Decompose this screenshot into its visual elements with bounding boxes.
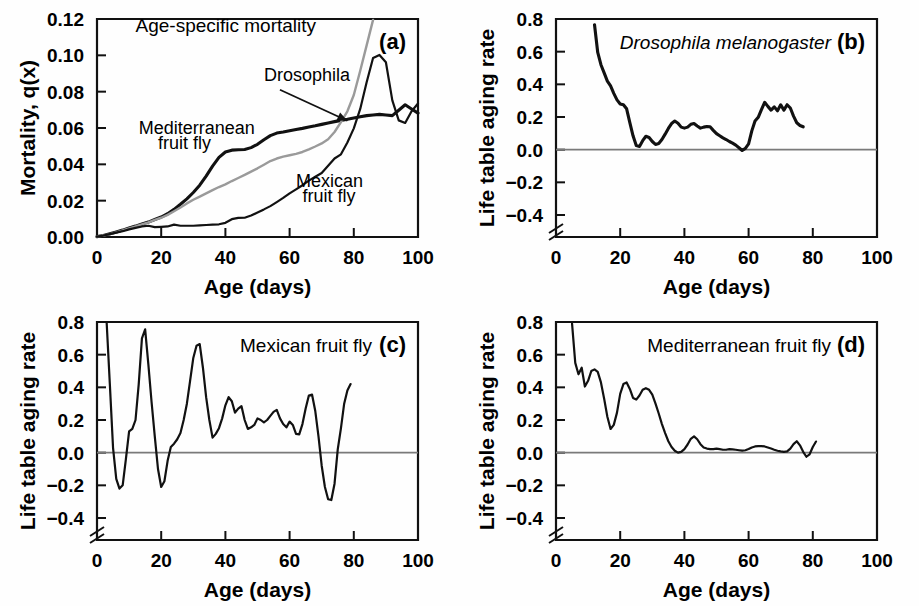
y-axis-title: Life table aging rate [475, 332, 498, 530]
panel-title: Mexican fruit fly [240, 335, 372, 356]
x-tick-label: 0 [92, 247, 103, 268]
panel-c-svg: −0.4−0.20.00.20.40.60.8020406080100Life … [0, 303, 459, 606]
panel-d-svg: −0.4−0.20.00.20.40.60.8020406080100Life … [460, 303, 919, 606]
panel-a-svg: 0.000.020.040.060.080.100.12020406080100… [0, 0, 459, 303]
y-tick-label: 0.6 [517, 42, 543, 63]
chart-panel-d: −0.4−0.20.00.20.40.60.8020406080100Life … [460, 303, 919, 606]
chart-panel-b: −0.4−0.20.00.20.40.60.8020406080100Life … [460, 0, 919, 303]
x-axis-title: Age (days) [663, 578, 770, 601]
series-annotation: fruit fly [302, 186, 355, 206]
x-axis-title: Age (days) [663, 275, 770, 298]
x-tick-label: 20 [151, 550, 172, 571]
panel-title: Age-specific mortality [136, 15, 317, 36]
y-tick-label: 0.00 [47, 227, 84, 248]
annotation-leader-line [280, 90, 347, 121]
y-tick-label: −0.2 [505, 172, 543, 193]
y-tick-label: 0.8 [58, 312, 84, 333]
y-tick-label: 0.2 [517, 410, 543, 431]
x-tick-label: 20 [610, 550, 631, 571]
x-tick-label: 60 [738, 550, 759, 571]
x-tick-label: 40 [674, 550, 695, 571]
panel-letter-label: (c) [379, 332, 406, 357]
y-tick-label: 0.0 [517, 140, 543, 161]
x-axis-title: Age (days) [204, 275, 311, 298]
y-tick-label: 0.8 [517, 312, 543, 333]
y-tick-label: −0.4 [505, 205, 543, 226]
chart-panel-c: −0.4−0.20.00.20.40.60.8020406080100Life … [0, 303, 459, 606]
y-tick-label: −0.2 [505, 475, 543, 496]
y-tick-label: 0.2 [517, 107, 543, 128]
panel-letter-label: (a) [379, 29, 406, 54]
x-axis-ticks: 020406080100 [92, 531, 434, 571]
x-tick-label: 80 [802, 247, 823, 268]
x-tick-label: 100 [861, 550, 893, 571]
y-tick-label: 0.12 [47, 9, 84, 30]
chart-panel-a: 0.000.020.040.060.080.100.12020406080100… [0, 0, 459, 303]
x-tick-label: 40 [215, 247, 236, 268]
x-tick-label: 60 [279, 247, 300, 268]
y-tick-label: 0.8 [517, 9, 543, 30]
x-axis-ticks: 020406080100 [551, 531, 893, 571]
y-tick-label: 0.6 [517, 345, 543, 366]
x-axis-title: Age (days) [204, 578, 311, 601]
y-tick-label: 0.06 [47, 118, 84, 139]
x-tick-label: 20 [151, 247, 172, 268]
panel-b-svg: −0.4−0.20.00.20.40.60.8020406080100Life … [460, 0, 919, 303]
x-tick-label: 60 [279, 550, 300, 571]
x-axis-ticks: 020406080100 [92, 228, 434, 268]
y-tick-label: 0.6 [58, 345, 84, 366]
y-tick-label: −0.4 [46, 508, 84, 529]
x-tick-label: 80 [343, 550, 364, 571]
x-tick-label: 0 [551, 550, 562, 571]
y-tick-label: 0.04 [47, 154, 84, 175]
y-axis-title: Life table aging rate [16, 332, 39, 530]
y-axis-title: Mortality, q(x) [16, 60, 39, 196]
y-tick-label: 0.02 [47, 191, 84, 212]
figure-container: 0.000.020.040.060.080.100.12020406080100… [0, 0, 919, 606]
panel-letter-label: (b) [837, 29, 865, 54]
y-tick-label: 0.10 [47, 45, 84, 66]
y-tick-label: 0.0 [58, 443, 84, 464]
x-tick-label: 40 [215, 550, 236, 571]
series-annotation: Drosophila [264, 65, 351, 85]
y-axis-title: Life table aging rate [475, 29, 498, 227]
y-tick-label: −0.4 [505, 508, 543, 529]
x-tick-label: 80 [343, 247, 364, 268]
series-annotation: fruit fly [158, 133, 211, 153]
x-axis-ticks: 020406080100 [551, 228, 893, 268]
panel-title: Drosophila melanogaster [620, 32, 832, 53]
x-tick-label: 60 [738, 247, 759, 268]
y-tick-label: 0.2 [58, 410, 84, 431]
y-tick-label: 0.4 [517, 377, 544, 398]
y-tick-label: 0.08 [47, 82, 84, 103]
x-tick-label: 40 [674, 247, 695, 268]
panel-title: Mediterranean fruit fly [647, 335, 831, 356]
x-tick-label: 100 [402, 247, 434, 268]
y-tick-label: 0.0 [517, 443, 543, 464]
x-tick-label: 100 [861, 247, 893, 268]
x-tick-label: 0 [92, 550, 103, 571]
panel-letter-label: (d) [837, 332, 865, 357]
x-tick-label: 80 [802, 550, 823, 571]
y-tick-label: 0.4 [517, 74, 544, 95]
x-tick-label: 0 [551, 247, 562, 268]
y-tick-label: 0.4 [58, 377, 85, 398]
y-tick-label: −0.2 [46, 475, 84, 496]
x-tick-label: 100 [402, 550, 434, 571]
x-tick-label: 20 [610, 247, 631, 268]
